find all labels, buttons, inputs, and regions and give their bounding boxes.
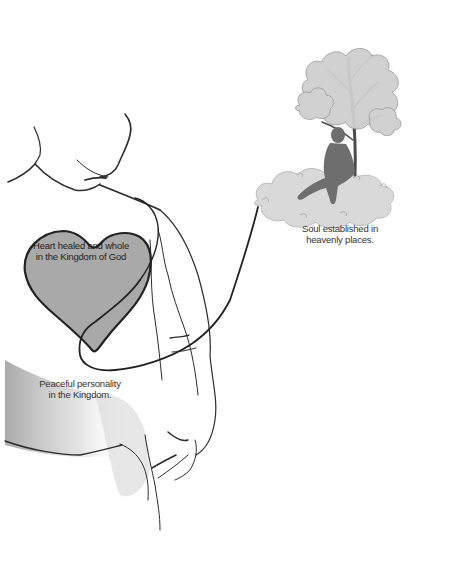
personality-label: Peaceful personality in the Kingdom.: [30, 378, 130, 400]
heart-label: Heart healed and whole in the Kingdom of…: [22, 240, 140, 262]
illustration-canvas: [0, 0, 453, 564]
heart-label-line2: in the Kingdom of God: [22, 251, 140, 262]
soul-label-line2: heavenly places.: [290, 234, 390, 245]
cloud-scene: [255, 49, 402, 229]
soul-label-line1: Soul established in: [290, 223, 390, 234]
heart-label-line1: Heart healed and whole: [22, 240, 140, 251]
personality-label-line2: in the Kingdom.: [30, 389, 130, 400]
cloud-shape: [255, 169, 394, 228]
soul-label: Soul established in heavenly places.: [290, 223, 390, 245]
personality-label-line1: Peaceful personality: [30, 378, 130, 389]
tree-foliage: [296, 49, 402, 136]
